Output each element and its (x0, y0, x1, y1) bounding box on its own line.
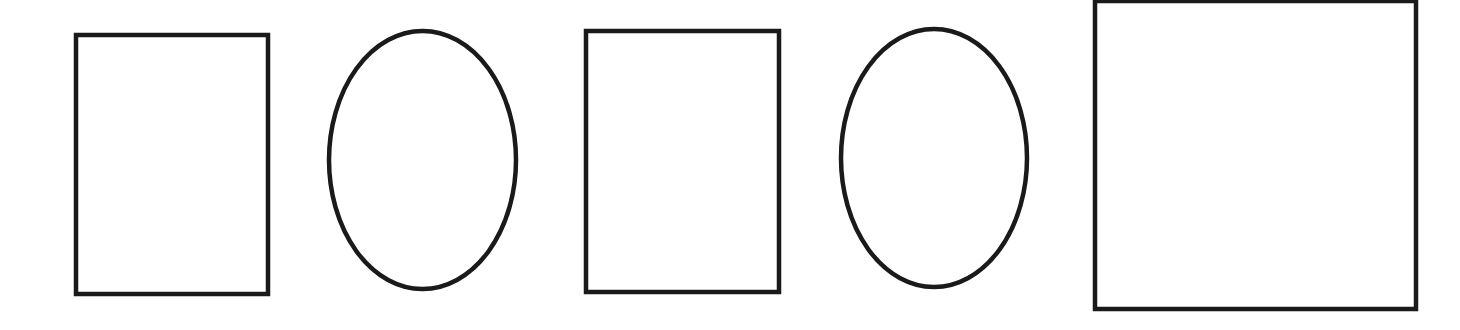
rectangle-shape-2 (586, 31, 779, 292)
rectangle-shape-1 (76, 35, 268, 294)
shapes-canvas (0, 0, 1460, 330)
ellipse-shape-2 (841, 29, 1027, 287)
ellipse-shape-1 (329, 31, 516, 289)
square-shape (1095, 1, 1416, 309)
